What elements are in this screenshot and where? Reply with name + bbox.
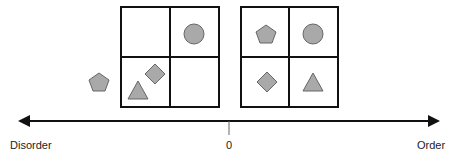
right-arrowhead-icon xyxy=(428,115,440,127)
pentagon-shape xyxy=(89,73,109,91)
pentagon-shape xyxy=(256,25,276,43)
left-arrowhead-icon xyxy=(18,115,30,127)
triangle-shape xyxy=(303,73,323,91)
diagram xyxy=(0,0,457,162)
diamond-shape xyxy=(145,64,165,84)
circle-shape xyxy=(184,24,204,44)
disorder-label: Disorder xyxy=(10,139,52,151)
triangle-shape xyxy=(128,81,148,99)
order-label: Order xyxy=(417,139,445,151)
circle-shape xyxy=(303,24,323,44)
order-axis xyxy=(18,115,440,135)
ordered-grid xyxy=(241,7,338,107)
zero-label: 0 xyxy=(226,139,232,151)
diamond-shape xyxy=(257,72,277,92)
